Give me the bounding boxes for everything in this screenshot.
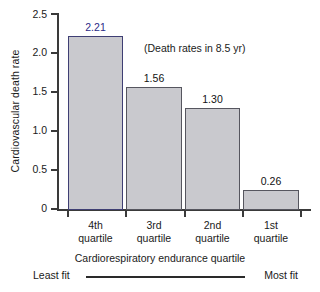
bar-value-3rd-quartile: 1.56 xyxy=(126,73,182,84)
x-category-label-line2: quartile xyxy=(68,232,123,245)
y-axis-title: Cardiovascular death rate xyxy=(9,11,21,211)
y-tick-label-0: 0 xyxy=(7,203,47,214)
x-tick-mark-3 xyxy=(184,211,186,217)
x-category-label-line1: 3rd xyxy=(126,219,182,232)
x-category-label-1st-quartile: 1st quartile xyxy=(243,219,299,244)
x-tick-mark-5 xyxy=(300,211,302,217)
x-axis-title: Cardiorespiratory endurance quartile xyxy=(0,252,320,264)
bar-3rd-quartile[interactable] xyxy=(126,87,182,210)
bar-4th-quartile[interactable] xyxy=(68,36,123,210)
x-category-label-line2: quartile xyxy=(185,232,240,245)
fitness-scale-right-label: Most fit xyxy=(264,269,298,281)
bar-chart-figure: Cardiovascular death rate 2.5 2.0 1.5 1.… xyxy=(0,0,320,292)
chart-annotation: (Death rates in 8.5 yr) xyxy=(144,42,246,54)
x-category-label-3rd-quartile: 3rd quartile xyxy=(126,219,182,244)
x-category-label-line1: 4th xyxy=(68,219,123,232)
y-tick-label-2-0: 2.0 xyxy=(7,47,47,58)
x-category-label-line1: 1st xyxy=(243,219,299,232)
x-category-label-line2: quartile xyxy=(243,232,299,245)
bar-value-1st-quartile: 0.26 xyxy=(243,176,299,187)
fitness-scale: Least fit Most fit xyxy=(0,269,320,283)
x-category-label-4th-quartile: 4th quartile xyxy=(68,219,123,244)
y-tick-label-1-0: 1.0 xyxy=(7,125,47,136)
y-axis-line xyxy=(57,13,59,211)
bar-1st-quartile[interactable] xyxy=(243,190,299,210)
y-tick-label-1-5: 1.5 xyxy=(7,86,47,97)
x-category-label-line2: quartile xyxy=(126,232,182,245)
fitness-scale-line xyxy=(86,276,245,278)
x-category-label-line1: 2nd xyxy=(185,219,240,232)
x-tick-mark-2 xyxy=(125,211,127,217)
bar-value-4th-quartile: 2.21 xyxy=(68,22,123,33)
x-category-label-2nd-quartile: 2nd quartile xyxy=(185,219,240,244)
y-tick-label-2-5: 2.5 xyxy=(7,9,47,20)
fitness-scale-left-label: Least fit xyxy=(33,269,70,281)
x-tick-mark-1 xyxy=(67,211,69,217)
x-tick-mark-4 xyxy=(242,211,244,217)
bar-value-2nd-quartile: 1.30 xyxy=(185,94,240,105)
y-tick-label-0-5: 0.5 xyxy=(7,164,47,175)
bar-2nd-quartile[interactable] xyxy=(185,108,240,210)
